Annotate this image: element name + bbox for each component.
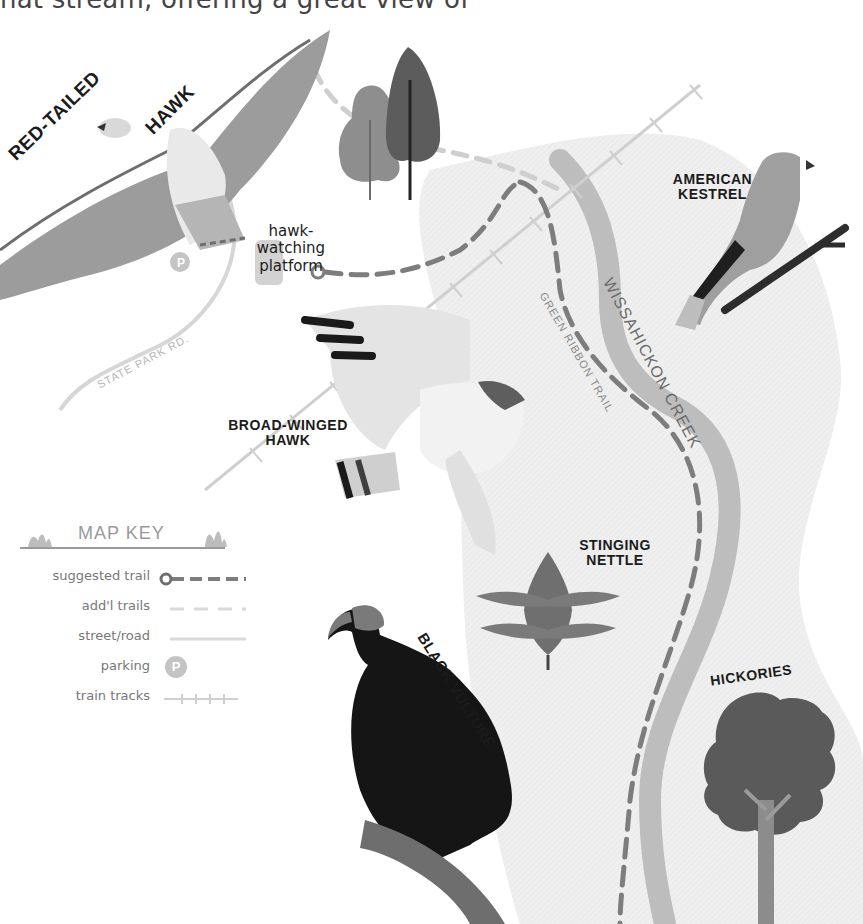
train-tracks-icon	[160, 693, 246, 705]
map-key-title: MAP KEY	[78, 523, 165, 544]
key-label: train tracks	[76, 688, 150, 703]
label-broad-winged-hawk: BROAD-WINGED HAWK	[208, 418, 368, 447]
key-label: parking	[101, 658, 150, 673]
key-label: add'l trails	[82, 598, 150, 613]
map-key-item-train-tracks: train tracks	[20, 688, 250, 710]
map-key-item-suggested-trail: suggested trail	[20, 568, 250, 590]
parking-icon: P	[172, 254, 190, 272]
map-key: MAP KEY suggested trail add'l trails str…	[20, 515, 250, 715]
street-road-icon	[160, 633, 246, 645]
label-american-kestrel-line1: AMERICAN	[660, 172, 765, 187]
key-label: suggested trail	[53, 568, 150, 583]
map-key-item-addl-trails: add'l trails	[20, 598, 250, 620]
additional-trails-icon	[160, 603, 246, 615]
label-broad-winged-line2: HAWK	[208, 433, 368, 448]
label-american-kestrel-line2: KESTREL	[660, 187, 765, 202]
map-key-item-street-road: street/road	[20, 628, 250, 650]
map-illustration	[0, 0, 863, 924]
map-key-item-parking: parking P	[20, 658, 250, 680]
label-hawk-watching-platform: hawk-watching platform	[236, 223, 346, 275]
suggested-trail-icon	[160, 573, 246, 585]
label-stinging-nettle-line2: NETTLE	[565, 553, 665, 568]
label-broad-winged-line1: BROAD-WINGED	[208, 418, 368, 433]
key-label: street/road	[78, 628, 150, 643]
label-hawk-watching-line1: hawk-watching	[236, 223, 346, 258]
label-stinging-nettle-line1: STINGING	[565, 538, 665, 553]
label-american-kestrel: AMERICAN KESTREL	[660, 172, 765, 201]
label-hawk-watching-line2: platform	[236, 258, 346, 275]
trees-illustration	[339, 47, 440, 200]
parking-icon: P	[165, 656, 187, 678]
label-stinging-nettle: STINGING NETTLE	[565, 538, 665, 567]
